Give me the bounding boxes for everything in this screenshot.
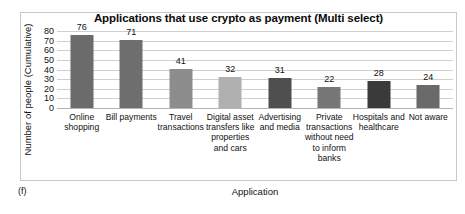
bar-group: 71: [107, 31, 157, 108]
bar-value-label: 71: [126, 28, 136, 37]
bar[interactable]: [367, 81, 390, 108]
bar[interactable]: [70, 35, 93, 108]
y-axis-tick-labels: 80706050403020100: [30, 31, 54, 108]
bar-group: 22: [305, 31, 355, 108]
bar-value-label: 22: [324, 75, 334, 84]
bar-group: 32: [206, 31, 256, 108]
plot-area: 7671413231222824: [57, 31, 453, 108]
x-axis-category-labels: Online shoppingBill paymentsTravel trans…: [57, 112, 453, 180]
x-tick-label: Bill payments: [104, 112, 158, 122]
bar[interactable]: [318, 87, 341, 108]
x-tick-label: Online shopping: [55, 112, 109, 132]
x-tick-label: Digital asset transfers like properties …: [203, 112, 257, 153]
bar-group: 24: [404, 31, 454, 108]
bar[interactable]: [169, 69, 192, 108]
bar-value-label: 31: [275, 66, 285, 75]
bar-value-label: 28: [374, 69, 384, 78]
bar-group: 76: [57, 31, 107, 108]
bar[interactable]: [417, 85, 440, 108]
x-tick-label: Private transactions without need to inf…: [302, 112, 356, 163]
gridline-0: [57, 108, 453, 109]
x-tick-label: Not aware: [401, 112, 455, 122]
x-tick-label: Advertising and media: [253, 112, 307, 132]
y-tick-label: 0: [49, 104, 54, 113]
x-axis-title: Application: [57, 186, 453, 197]
figure-tag: (f): [18, 186, 27, 196]
bar[interactable]: [219, 77, 242, 108]
bar-series: 7671413231222824: [57, 31, 453, 108]
bar-group: 28: [354, 31, 404, 108]
bar-value-label: 41: [176, 57, 186, 66]
bar-group: 41: [156, 31, 206, 108]
bar-group: 31: [255, 31, 305, 108]
figure-container: Applications that use crypto as payment …: [0, 0, 465, 214]
bar[interactable]: [120, 40, 143, 108]
bar-value-label: 32: [225, 65, 235, 74]
x-tick-label: Travel transactions: [154, 112, 208, 132]
x-tick-label: Hospitals and healthcare: [352, 112, 406, 132]
bar[interactable]: [268, 78, 291, 108]
bar-value-label: 24: [423, 73, 433, 82]
bar-value-label: 76: [77, 23, 87, 32]
